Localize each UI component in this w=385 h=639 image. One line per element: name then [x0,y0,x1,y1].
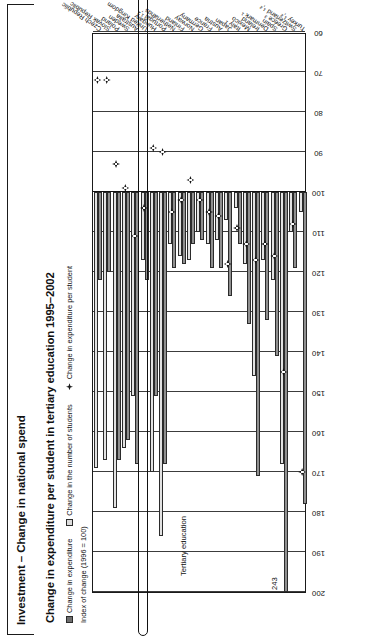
chart-row [112,34,121,592]
bars-layer [93,34,305,592]
legend-item-per-student: Change in expenditure per student [65,266,74,391]
axis-tick-60: 60 [310,29,328,38]
legend-label-expenditure: Change in expenditure [65,539,74,613]
page-title: Investment – Change in national spend [15,415,27,635]
marker-expenditure-per-student [159,148,167,156]
page-header: Investment – Change in national spend [7,4,34,635]
chart-row [177,34,186,592]
axis-tick-190: 190 [310,549,328,558]
dark-square-icon [66,616,73,623]
chart-legend: Change in expenditure Change in the numb… [65,266,74,623]
axis-tick-140: 140 [310,349,328,358]
page-root: Investment – Change in national spend Ch… [0,0,385,639]
legend-label-per-student: Change in expenditure per student [65,266,74,379]
chart-row [130,34,139,592]
axis-tick-170: 170 [310,469,328,478]
chart-row [298,34,307,592]
annotation-overflow-value: 243 [270,577,279,590]
chart-row [93,34,102,592]
axis-tick-70: 70 [310,69,328,78]
chart-row [233,34,242,592]
axis-caption: Index of change (1996 = 100) [79,526,88,623]
chart-row [195,34,204,592]
axis-tick-160: 160 [310,429,328,438]
diamond-marker-icon [65,382,74,391]
legend-item-students: Change in the number of students [65,404,74,525]
chart-row [270,34,279,592]
chart-row [260,34,269,592]
chart-row [279,34,288,592]
chart-row [158,34,167,592]
axis-tick-150: 150 [310,389,328,398]
marker-expenditure-per-student [112,160,120,168]
annotation-tertiary-education: Tertiary education [179,516,188,576]
axis-tick-200: 200 [310,589,328,598]
axis-tick-90: 90 [310,149,328,158]
chart-row [242,34,251,592]
category-labels: Czech RepublicSlovak RepublicPolandSwede… [92,3,306,33]
chart-row [223,34,232,592]
chart-row [102,34,111,592]
legend-item-expenditure: Change in expenditure [65,539,74,623]
marker-expenditure-per-student [186,176,194,184]
axis-tick-120: 120 [310,269,328,278]
axis-tick-100: 100 [310,189,328,198]
axis-tick-labels: 2001901801701601501401301201101009080706… [307,33,333,593]
chart-row [140,34,149,592]
legend-label-students: Change in the number of students [65,404,74,515]
marker-expenditure-per-student [103,76,111,84]
axis-tick-80: 80 [310,109,328,118]
chart-row [288,34,297,592]
chart-row [121,34,130,592]
axis-tick-130: 130 [310,309,328,318]
chart-row [167,34,176,592]
marker-expenditure-per-student [121,184,129,192]
chart-row [205,34,214,592]
plot-area: Tertiary education 243 [92,33,306,593]
marker-expenditure-per-student [93,76,101,84]
chart-row [149,34,158,592]
chart-row [214,34,223,592]
axis-tick-180: 180 [310,509,328,518]
chart-row [251,34,260,592]
light-square-icon [66,519,73,526]
chart-row [186,34,195,592]
axis-tick-110: 110 [310,229,328,238]
chart-title: Change in expenditure per student in ter… [44,272,56,623]
chart-container: Change in expenditure per student in ter… [34,4,378,635]
marker-expenditure-per-student [149,144,157,152]
